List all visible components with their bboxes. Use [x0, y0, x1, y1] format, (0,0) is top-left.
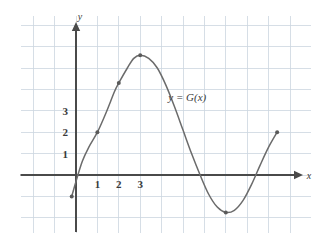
x-tick-label: 1	[95, 178, 101, 190]
grid-background	[21, 16, 311, 233]
curve-marked-point	[95, 130, 99, 134]
x-axis-name-label: x	[306, 170, 312, 181]
curve-equation-label: y = G(x)	[167, 91, 206, 104]
curve-marked-point	[275, 130, 279, 134]
x-tick-label: 2	[116, 178, 122, 190]
curve-marked-point	[70, 194, 74, 198]
grid-lines	[21, 16, 311, 233]
curve-marked-point	[138, 53, 142, 57]
y-tick-label: 2	[63, 126, 69, 138]
curve-marked-point	[224, 210, 228, 214]
graph-figure: 123123yxy = G(x)	[0, 0, 332, 249]
x-tick-label: 3	[137, 178, 143, 190]
y-tick-label: 3	[63, 105, 69, 117]
curve-marked-point	[117, 81, 121, 85]
y-axis-name-label: y	[77, 11, 83, 22]
y-tick-label: 1	[63, 148, 69, 160]
